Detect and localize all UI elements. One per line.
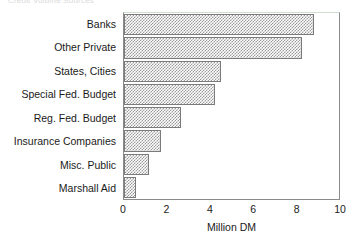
plot-area bbox=[123, 12, 340, 200]
bar-row bbox=[124, 83, 339, 106]
y-axis-tick-label: Insurance Companies bbox=[0, 130, 119, 154]
bar-row bbox=[124, 176, 339, 199]
x-axis-tick-label: 6 bbox=[250, 203, 256, 215]
x-axis-tick-label: 8 bbox=[294, 203, 300, 215]
y-axis-tick-label: States, Cities bbox=[0, 59, 119, 83]
y-axis-tick-label: Other Private bbox=[0, 36, 119, 60]
x-axis-tick-labels: 0 2 4 6 8 10 bbox=[123, 200, 340, 216]
y-axis-tick-label: Marshall Aid bbox=[0, 177, 119, 201]
bar bbox=[124, 177, 136, 198]
x-axis-tick-label: 2 bbox=[163, 203, 169, 215]
bar-row bbox=[124, 106, 339, 129]
chart-figure: Credit Volume Sources Banks Other Privat… bbox=[0, 0, 359, 251]
bar-row bbox=[124, 60, 339, 83]
y-axis-tick-label: Misc. Public bbox=[0, 153, 119, 177]
bar bbox=[124, 130, 161, 151]
bar-series bbox=[124, 13, 339, 199]
y-axis-category-labels: Banks Other Private States, Cities Speci… bbox=[0, 12, 119, 200]
bar-row bbox=[124, 153, 339, 176]
y-axis-tick-label: Special Fed. Budget bbox=[0, 83, 119, 107]
x-axis-title: Million DM bbox=[123, 221, 340, 233]
cut-off-caption: Credit Volume Sources bbox=[8, 0, 188, 5]
bar-row bbox=[124, 36, 339, 59]
x-axis-tick-label: 0 bbox=[120, 203, 126, 215]
bar bbox=[124, 154, 149, 175]
y-axis-tick-label: Reg. Fed. Budget bbox=[0, 106, 119, 130]
y-axis-tick-label: Banks bbox=[0, 12, 119, 36]
bar-row bbox=[124, 13, 339, 36]
bar bbox=[124, 84, 215, 105]
x-axis-tick-label: 4 bbox=[207, 203, 213, 215]
bar bbox=[124, 37, 302, 58]
bar bbox=[124, 107, 181, 128]
x-axis-tick-label: 10 bbox=[334, 203, 346, 215]
bar bbox=[124, 14, 314, 35]
bar bbox=[124, 61, 221, 82]
bar-row bbox=[124, 129, 339, 152]
